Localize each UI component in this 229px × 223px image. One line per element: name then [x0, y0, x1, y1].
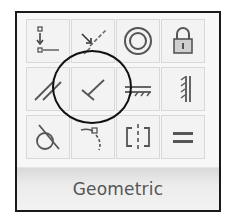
collinear-button[interactable]: [71, 19, 115, 63]
concentric-button[interactable]: [116, 19, 160, 63]
tool-grid: [26, 19, 208, 159]
perpendicular-button[interactable]: [71, 67, 115, 111]
vertical-icon: [166, 72, 200, 106]
tangent-icon: [31, 120, 65, 154]
horizontal-icon: [121, 72, 155, 106]
lock-icon: [166, 24, 200, 58]
perpendicular-icon: [76, 72, 110, 106]
collinear-icon: [76, 24, 110, 58]
equal-button[interactable]: [161, 115, 205, 159]
vertical-button[interactable]: [161, 67, 205, 111]
horizontal-button[interactable]: [116, 67, 160, 111]
geometric-constraints-panel: Geometric: [15, 11, 221, 212]
concentric-icon: [121, 24, 155, 58]
panel-title-bar[interactable]: Geometric: [17, 167, 219, 210]
coincident-icon: [31, 24, 65, 58]
coincident-button[interactable]: [26, 19, 70, 63]
panel-title: Geometric: [73, 179, 164, 199]
parallel-icon: [31, 72, 65, 106]
parallel-button[interactable]: [26, 67, 70, 111]
tangent-button[interactable]: [26, 115, 70, 159]
symmetric-button[interactable]: [116, 115, 160, 159]
smooth-icon: [76, 120, 110, 154]
smooth-button[interactable]: [71, 115, 115, 159]
fix-button[interactable]: [161, 19, 205, 63]
equal-icon: [166, 120, 200, 154]
symmetric-icon: [121, 120, 155, 154]
